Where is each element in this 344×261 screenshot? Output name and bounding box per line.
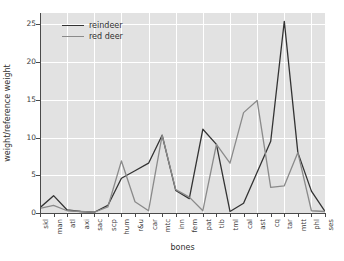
x-tick-mark (81, 213, 82, 217)
x-tick-mark (94, 213, 95, 217)
x-tick-label: cq (274, 219, 281, 227)
y-axis-title: weight/reference weight (2, 13, 13, 213)
x-tick-label: tib (219, 219, 226, 228)
x-tick-mark (325, 213, 326, 217)
chart-legend: reindeerred deer (62, 20, 123, 42)
x-tick-mark (230, 213, 231, 217)
x-tick-mark (216, 213, 217, 217)
x-tick-mark (311, 213, 312, 217)
x-tick-mark (176, 213, 177, 217)
x-tick-mark (284, 213, 285, 217)
series-line-red-deer (40, 101, 325, 213)
x-tick-mark (162, 213, 163, 217)
x-tick-label: car (152, 219, 159, 230)
x-tick-mark (108, 213, 109, 217)
x-tick-label: ast (260, 219, 267, 230)
legend-entry: reindeer (62, 20, 123, 31)
x-tick-mark (54, 213, 55, 217)
x-tick-label: tml (233, 219, 240, 231)
x-tick-mark (298, 213, 299, 217)
y-axis-line (40, 13, 41, 214)
x-tick-mark (271, 213, 272, 217)
x-tick-mark (149, 213, 150, 217)
x-tick-label: skl (43, 219, 50, 229)
legend-swatch (62, 25, 84, 26)
x-tick-label: atl (70, 219, 77, 228)
x-tick-label: sac (97, 219, 104, 231)
x-tick-label: fem (192, 219, 199, 233)
x-tick-mark (203, 213, 204, 217)
x-tick-label: r&u (138, 219, 145, 232)
series-layer (40, 13, 325, 213)
y-tick-mark (36, 138, 40, 139)
legend-swatch (62, 36, 84, 37)
x-tick-mark (121, 213, 122, 217)
x-tick-label: scp (111, 219, 118, 231)
y-tick-mark (36, 100, 40, 101)
series-line-reindeer (40, 21, 325, 212)
x-tick-mark (189, 213, 190, 217)
x-axis-title: bones (40, 243, 325, 252)
y-tick-mark (36, 62, 40, 63)
legend-label: reindeer (89, 20, 123, 31)
x-tick-mark (244, 213, 245, 217)
x-tick-label: axi (84, 219, 91, 229)
x-tick-label: tar (287, 219, 294, 229)
x-tick-label: man (57, 219, 64, 235)
x-tick-label: inn (179, 219, 186, 230)
x-tick-mark (67, 213, 68, 217)
plot-area (40, 13, 325, 213)
x-tick-mark (135, 213, 136, 217)
x-tick-label: ses (328, 219, 335, 231)
y-tick-mark (36, 24, 40, 25)
x-tick-mark (40, 213, 41, 217)
x-tick-label: cal (247, 219, 254, 229)
line-chart-figure: 0510152025 sklmanatlaxisacscphumr&ucarmt… (0, 0, 344, 261)
x-tick-mark (257, 213, 258, 217)
x-tick-label: pat (206, 219, 213, 230)
x-tick-label: mtt (301, 219, 308, 231)
x-tick-label: phl (314, 219, 321, 230)
y-tick-mark (36, 175, 40, 176)
x-tick-label: mtc (165, 219, 172, 232)
legend-label: red deer (89, 31, 123, 42)
x-tick-label: hum (124, 219, 131, 235)
legend-entry: red deer (62, 31, 123, 42)
